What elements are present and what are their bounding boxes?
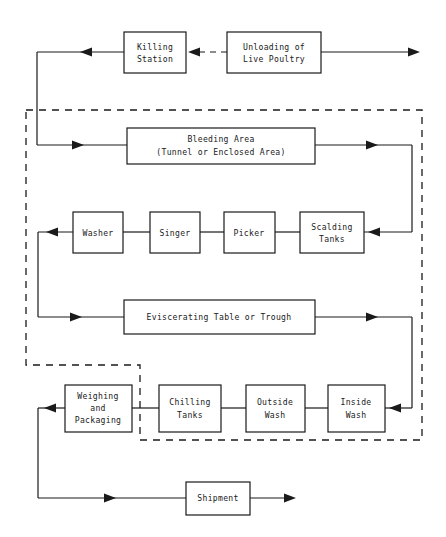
arrow-into-eviscerating: [70, 313, 82, 322]
chilling-tanks-label-line2: Tanks: [177, 410, 203, 420]
node-scalding-tanks[interactable]: Scalding Tanks: [300, 212, 364, 253]
arrow-right-row4: [366, 313, 378, 322]
arrow-into-bleeding-area: [72, 141, 84, 150]
scalding-tanks-label-line2: Tanks: [319, 234, 345, 244]
chilling-tanks-box[interactable]: [159, 385, 221, 432]
node-inside-wash[interactable]: Inside Wash: [328, 385, 385, 432]
unloading-label-line2: Live Poultry: [243, 54, 305, 64]
arrow-left-row1: [80, 48, 92, 57]
inside-wash-box[interactable]: [328, 385, 385, 432]
weighing-packaging-label-line1: Weighing: [77, 391, 118, 401]
singer-label: Singer: [159, 228, 190, 238]
inside-wash-label-line2: Wash: [346, 410, 367, 420]
scalding-tanks-label-line1: Scalding: [311, 222, 352, 232]
inside-wash-label-line1: Inside: [340, 397, 371, 407]
node-chilling-tanks[interactable]: Chilling Tanks: [159, 385, 221, 432]
scalding-tanks-box[interactable]: [300, 212, 364, 253]
arrow-left-row3: [46, 228, 58, 237]
node-killing-station[interactable]: Killing Station: [124, 32, 186, 73]
arrow-into-killing-station: [188, 48, 200, 57]
outside-wash-label-line1: Outside: [257, 397, 293, 407]
shipment-label: Shipment: [197, 493, 238, 503]
arrow-into-shipment: [104, 494, 116, 503]
eviscerating-label: Eviscerating Table or Trough: [147, 312, 292, 322]
killing-station-label-line1: Killing: [137, 42, 173, 52]
bleeding-area-label-line2: (Tunnel or Enclosed Area): [156, 147, 285, 157]
unloading-box[interactable]: [227, 32, 321, 73]
arrow-right-row2: [366, 141, 378, 150]
arrow-left-row5: [44, 404, 56, 413]
outside-wash-box[interactable]: [246, 385, 305, 432]
unloading-label-line1: Unloading of: [243, 42, 305, 52]
node-unloading-live-poultry[interactable]: Unloading of Live Poultry: [227, 32, 321, 73]
chilling-tanks-label-line1: Chilling: [169, 397, 210, 407]
node-bleeding-area[interactable]: Bleeding Area (Tunnel or Enclosed Area): [127, 128, 315, 164]
arrow-shipment-out: [284, 494, 296, 503]
arrow-into-inside-wash: [389, 404, 401, 413]
arrow-into-scalding-tanks: [368, 228, 380, 237]
outside-wash-label-line2: Wash: [265, 410, 286, 420]
bleeding-area-label-line1: Bleeding Area: [187, 134, 254, 144]
picker-label: Picker: [233, 228, 264, 238]
arrow-right-end-row1: [408, 48, 420, 57]
node-shipment[interactable]: Shipment: [186, 482, 250, 515]
killing-station-label-line2: Station: [137, 54, 173, 64]
weighing-packaging-label-line2: and: [90, 403, 106, 413]
node-picker[interactable]: Picker: [224, 212, 275, 253]
node-singer[interactable]: Singer: [150, 212, 200, 253]
node-weighing-packaging[interactable]: Weighing and Packaging: [65, 385, 132, 432]
node-eviscerating-table[interactable]: Eviscerating Table or Trough: [124, 300, 315, 334]
flowchart-canvas: Killing Station Unloading of Live Poultr…: [0, 0, 446, 537]
node-outside-wash[interactable]: Outside Wash: [246, 385, 305, 432]
node-washer[interactable]: Washer: [73, 212, 123, 253]
weighing-packaging-label-line3: Packaging: [75, 415, 122, 425]
washer-label: Washer: [82, 228, 113, 238]
killing-station-box[interactable]: [124, 32, 186, 73]
flow-diagram: Killing Station Unloading of Live Poultr…: [0, 0, 446, 537]
